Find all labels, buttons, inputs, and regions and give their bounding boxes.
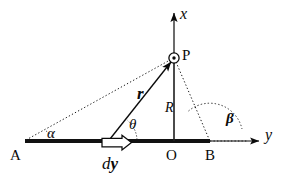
angle-theta-label: θ xyxy=(129,117,136,132)
origin-o-label: O xyxy=(166,148,177,163)
point-b-label: B xyxy=(205,148,215,163)
dy-label-y: y xyxy=(111,154,119,173)
distance-r-label: R xyxy=(165,101,174,115)
physics-diagram-figure: x y A B P O R r dy α θ β xyxy=(0,0,282,177)
point-a-label: A xyxy=(10,148,21,163)
current-element-dy-arrow-icon xyxy=(102,135,132,150)
angle-beta-label: β xyxy=(226,111,234,126)
vector-r-label: r xyxy=(137,85,144,102)
point-p-dot-icon xyxy=(172,56,175,59)
y-axis-label: y xyxy=(265,127,272,143)
x-axis-label: x xyxy=(180,6,187,22)
angle-alpha-label: α xyxy=(47,126,55,141)
current-element-dy-label: dy xyxy=(102,155,118,172)
dy-label-d: d xyxy=(102,154,111,173)
point-p-label: P xyxy=(182,48,190,63)
construction-line-p-to-b xyxy=(176,62,209,139)
